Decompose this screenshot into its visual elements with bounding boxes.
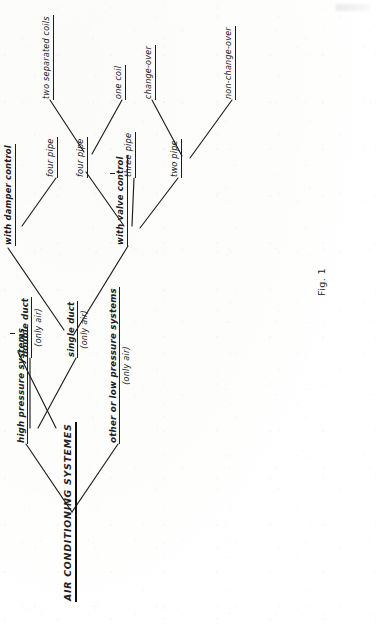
node-four-pipe-damper: four pipe [46,137,58,178]
figure-caption: Fig. 1 [316,268,327,296]
node-four-pipe-damper-label: four pipe [46,137,58,178]
node-two-pipe-label: two pipe [170,139,182,178]
node-single-duct-label: single duct [66,301,78,358]
node-single-duct: single duct (only air) [66,301,90,358]
edge-root-low [72,444,118,512]
node-three-pipe-label: three pipe [124,132,136,178]
node-two-pipe: two pipe [170,139,182,178]
scanned-page: AIR CONDITIONING SYSTEMES other or low p… [0,0,376,640]
tree-connector-lines [0,0,376,640]
node-valve-control-tick [110,173,115,174]
node-low-pressure-systems: other or low pressure systems (only air) [108,287,132,444]
node-low-pressure-label: other or low pressure systems [108,287,120,444]
node-non-change-over-label: non-change-over [224,26,236,100]
node-double-duct-sub: (only air) [32,297,44,358]
node-with-damper-control-label: with damper control [4,144,16,246]
diagram-canvas-wrapper: AIR CONDITIONING SYSTEMES other or low p… [0,0,376,640]
node-double-duct: double duct (only air) [20,297,44,358]
node-four-pipe-valve: four pipe [76,137,88,178]
node-three-pipe: three pipe [124,132,136,178]
node-single-duct-sub: (only air) [78,301,90,358]
node-with-damper-control: with damper control [4,144,16,246]
node-four-pipe-valve-label: four pipe [76,137,88,178]
node-double-duct-label: double duct [20,297,32,358]
node-change-over: change-over [144,45,156,100]
node-non-change-over: non-change-over [224,26,236,100]
node-low-pressure-sub: (only air) [120,287,132,444]
node-two-separated-coils: two separated coils [42,15,54,100]
node-two-separated-coils-label: two separated coils [42,15,54,100]
node-one-coil-label: one coil [114,65,126,100]
node-root: AIR CONDITIONING SYSTEMES [62,422,77,602]
node-one-coil: one coil [114,65,126,100]
node-root-label: AIR CONDITIONING SYSTEMES [62,422,77,602]
node-high-pressure-tick [10,333,15,334]
node-change-over-label: change-over [144,45,156,100]
tree-diagram: AIR CONDITIONING SYSTEMES other or low p… [0,0,376,640]
